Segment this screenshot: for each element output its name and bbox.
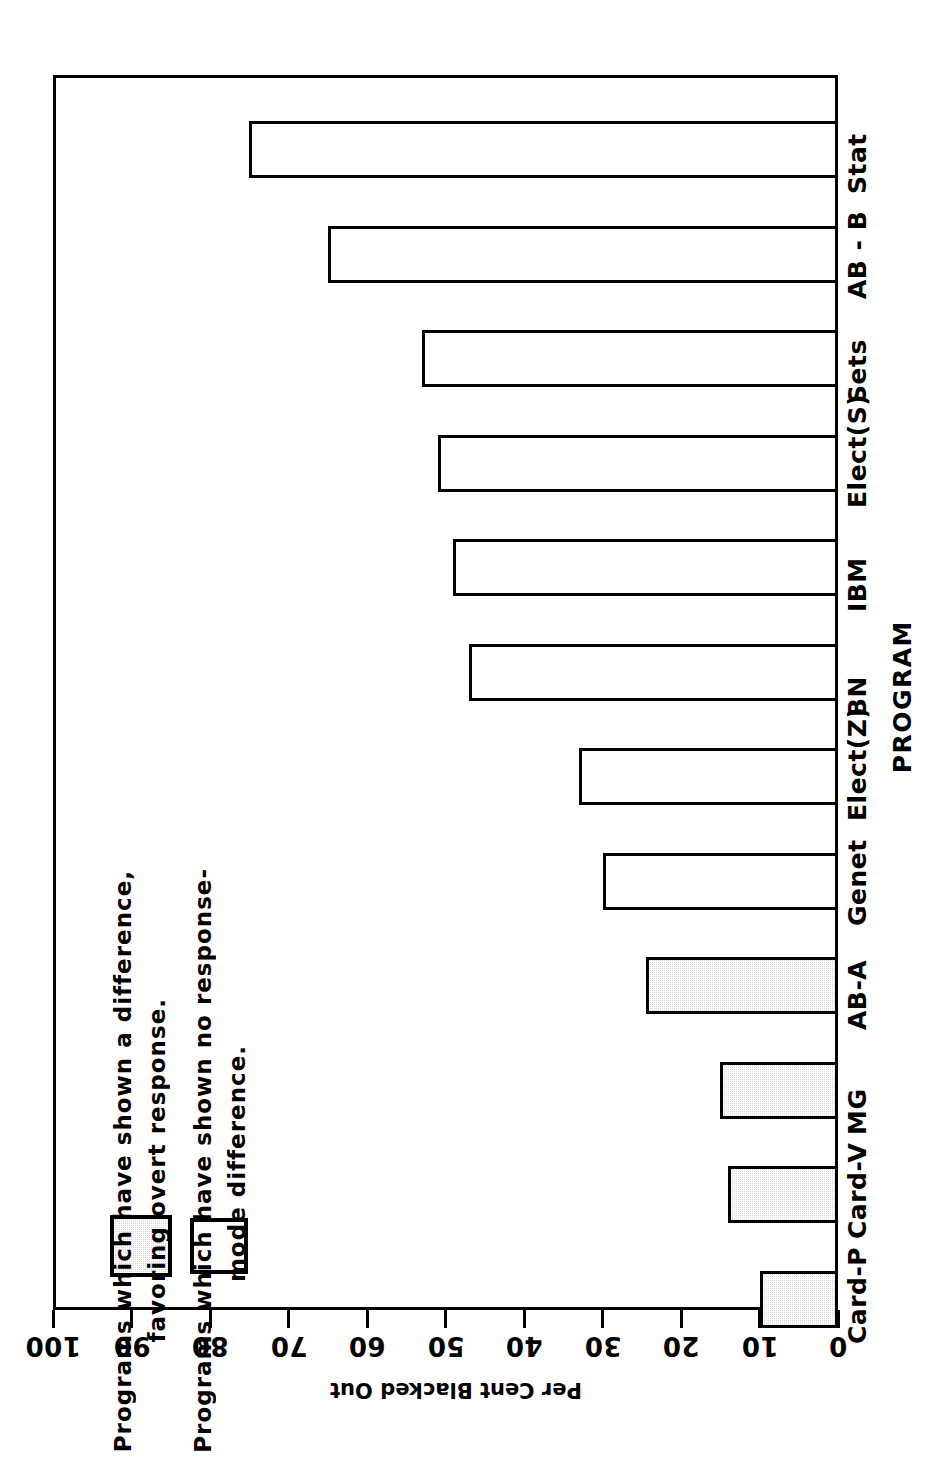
axis-tick [523, 1310, 526, 1328]
bar [579, 748, 838, 805]
bar [469, 644, 838, 701]
axis-tick [52, 1310, 55, 1328]
axis-tick-label: 30 [584, 1331, 621, 1361]
bar [646, 957, 838, 1014]
category-label: AB - B [843, 210, 872, 299]
category-label: Genet [843, 837, 872, 926]
axis-tick [444, 1310, 447, 1328]
axis-tick-label: 50 [427, 1331, 464, 1361]
axis-tick [837, 1310, 840, 1328]
axis-tick [366, 1310, 369, 1328]
axis-tick [287, 1310, 290, 1328]
value-axis-title: Per Cent Blacked Out [330, 1378, 582, 1402]
bar [603, 853, 839, 910]
category-label: Stat [843, 105, 872, 194]
axis-tick-label: 60 [348, 1331, 385, 1361]
bar [422, 330, 838, 387]
bar [728, 1166, 838, 1223]
bar [453, 539, 838, 596]
bar [328, 226, 838, 283]
value-axis-tick-labels: 0102030405060708090100 [53, 1331, 838, 1377]
axis-tick-label: 100 [25, 1331, 81, 1361]
axis-tick [758, 1310, 761, 1328]
bar [249, 121, 838, 178]
category-label: Card-P [843, 1255, 872, 1344]
category-label: Elect(S) [843, 419, 872, 508]
category-label: Elect(Z) [843, 732, 872, 821]
axis-tick-label: 20 [662, 1331, 699, 1361]
bar [720, 1062, 838, 1119]
legend-entry-1-line-2: mode difference. [224, 1045, 250, 1282]
legend-entry-0-line-1: Programs which have shown a difference, [110, 870, 136, 1452]
category-label: BN [843, 628, 872, 717]
category-label: MG [843, 1046, 872, 1135]
category-label: Card-V [843, 1150, 872, 1239]
value-axis-ticks [53, 1310, 838, 1330]
category-axis-title: PROGRAM [888, 620, 917, 773]
axis-tick-label: 40 [505, 1331, 542, 1361]
axis-tick-label: 70 [270, 1331, 307, 1361]
axis-tick-label: 10 [741, 1331, 778, 1361]
category-label: Sets [843, 314, 872, 403]
axis-tick [680, 1310, 683, 1328]
legend: Programs which have shown a difference, … [100, 830, 330, 1300]
legend-entry-1-line-1: Programs which have shown no response- [190, 868, 216, 1453]
bar-chart-figure: 0102030405060708090100 Per Cent Blacked … [0, 0, 952, 1463]
category-label: IBM [843, 523, 872, 612]
category-label: AB-A [843, 941, 872, 1030]
legend-entry-0-line-2: favoring overt response. [144, 998, 170, 1342]
bar [438, 435, 838, 492]
axis-tick [601, 1310, 604, 1328]
